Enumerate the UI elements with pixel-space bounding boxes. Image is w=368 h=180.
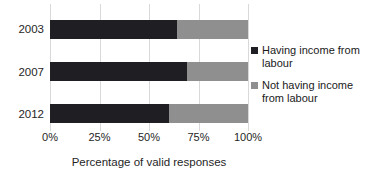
x-axis-tick-label: 25% xyxy=(88,131,110,144)
bar-segment xyxy=(187,62,248,81)
y-axis-label: 2003 xyxy=(0,22,44,36)
stacked-bar-chart: 200320072012 0%25%50%75%100% Percentage … xyxy=(0,0,368,180)
x-axis-tick-label: 100% xyxy=(234,131,262,144)
plot-area xyxy=(50,4,248,127)
bar-row-2007 xyxy=(50,62,248,81)
bar-segment xyxy=(177,20,248,39)
legend-label: Having income from labour xyxy=(262,44,362,70)
legend-swatch-icon xyxy=(251,47,258,54)
y-axis-label: 2007 xyxy=(0,65,44,79)
y-axis-label: 2012 xyxy=(0,107,44,121)
bar-segment xyxy=(50,62,187,81)
legend-label: Not having income from labour xyxy=(262,79,362,105)
legend-item: Not having income from labour xyxy=(251,79,362,105)
legend-item: Having income from labour xyxy=(251,44,362,70)
gridline xyxy=(248,4,249,131)
x-axis-tick-label: 0% xyxy=(42,131,58,144)
bar-row-2003 xyxy=(50,20,248,39)
bar-row-2012 xyxy=(50,104,248,123)
x-axis-tick-label: 50% xyxy=(138,131,160,144)
x-axis-title: Percentage of valid responses xyxy=(50,155,248,169)
legend-swatch-icon xyxy=(251,82,258,89)
bar-segment xyxy=(50,20,177,39)
x-axis-tick-label: 75% xyxy=(187,131,209,144)
bar-segment xyxy=(50,104,169,123)
bar-segment xyxy=(169,104,248,123)
